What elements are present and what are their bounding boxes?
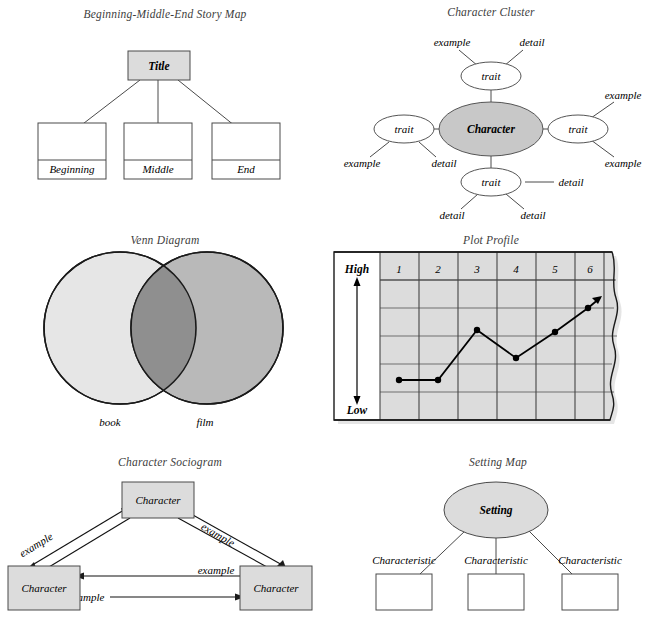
trait-leaf-label: example	[605, 89, 642, 101]
setting-map-title: Setting Map	[340, 456, 656, 468]
panel-character-cluster: Character Cluster Character trait exampl…	[326, 6, 656, 234]
setting-map-child-label: Characteristic	[558, 554, 622, 566]
story-map-child-label: Beginning	[49, 163, 95, 175]
trait-leaf-label: detail	[431, 157, 456, 169]
character-cluster-trait-top[interactable]: trait	[461, 62, 521, 90]
setting-map-child-1[interactable]: Characteristic	[372, 554, 436, 610]
story-map-diagram: Title Beginning Middle End	[0, 8, 330, 218]
character-sociogram-title: Character Sociogram	[0, 456, 340, 468]
trait-label: trait	[569, 123, 589, 135]
venn-label-left: book	[99, 416, 122, 428]
plot-data-point	[474, 327, 480, 333]
trait-leaf-label: detail	[439, 209, 464, 221]
plot-profile-title: Plot Profile	[326, 234, 656, 246]
sociogram-edge-label: example	[199, 520, 237, 549]
plot-data-point	[396, 377, 402, 383]
sociogram-node-top[interactable]: Character	[122, 482, 194, 518]
plot-y-axis-low-label: Low	[346, 404, 368, 416]
trait-leaf-label: detail	[520, 209, 545, 221]
plot-data-point	[435, 377, 441, 383]
setting-map-child-label: Characteristic	[372, 554, 436, 566]
story-map-root-label: Title	[148, 60, 169, 72]
setting-map-child-2[interactable]: Characteristic	[464, 554, 528, 610]
story-map-title: Beginning-Middle-End Story Map	[0, 8, 330, 20]
venn-label-right: film	[196, 416, 213, 428]
character-sociogram-diagram: example example example example Characte…	[0, 456, 340, 616]
plot-column-header: 2	[435, 263, 441, 275]
setting-map-center-label: Setting	[479, 504, 512, 517]
sociogram-node-bottom-right[interactable]: Character	[240, 566, 312, 610]
plot-column-header: 4	[513, 263, 519, 275]
plot-profile-chart: 1 2 3 4 5 6 High Low	[326, 234, 656, 426]
plot-data-point	[513, 355, 519, 361]
plot-y-axis-high-label: High	[344, 263, 369, 276]
story-map-child-label: End	[236, 163, 255, 175]
venn-diagram-graphic: book film	[0, 234, 330, 434]
character-cluster-center-node[interactable]: Character	[439, 102, 543, 156]
trait-leaf-label: example	[605, 157, 642, 169]
plot-column-header: 3	[473, 263, 480, 275]
setting-map-child-3[interactable]: Characteristic	[558, 554, 622, 610]
story-map-child-beginning[interactable]: Beginning	[38, 123, 106, 179]
setting-map-center-node[interactable]: Setting	[444, 482, 548, 538]
trait-label: trait	[482, 176, 502, 188]
trait-leaf-label: example	[344, 157, 381, 169]
trait-label: trait	[395, 123, 415, 135]
setting-map-diagram: Setting Characteristic Characteristic Ch…	[340, 456, 656, 616]
character-cluster-trait-right[interactable]: trait	[548, 115, 608, 143]
sociogram-node-label: Character	[253, 582, 299, 594]
plot-data-point	[585, 305, 591, 311]
setting-map-child-label: Characteristic	[464, 554, 528, 566]
venn-diagram-title: Venn Diagram	[0, 234, 330, 246]
trait-leaf-label: example	[434, 36, 471, 48]
sociogram-edge-label: example	[198, 564, 235, 576]
sociogram-edge-left-to-right[interactable]	[110, 594, 245, 601]
story-map-child-end[interactable]: End	[212, 123, 280, 179]
panel-story-map: Beginning-Middle-End Story Map Title Beg…	[0, 8, 330, 230]
character-cluster-diagram: Character trait example detail trait exa…	[326, 6, 656, 228]
trait-label: trait	[482, 70, 502, 82]
trait-leaf-label: detail	[558, 176, 583, 188]
panel-character-sociogram: Character Sociogram example example exam…	[0, 456, 340, 624]
plot-column-header: 5	[552, 263, 558, 275]
plot-data-point	[552, 329, 558, 335]
character-cluster-trait-left[interactable]: trait	[374, 115, 434, 143]
panel-venn-diagram: Venn Diagram book film	[0, 234, 330, 444]
trait-leaf-label: detail	[519, 36, 544, 48]
sociogram-node-label: Character	[135, 494, 181, 506]
character-cluster-trait-bottom[interactable]: trait	[461, 168, 521, 196]
plot-column-header: 6	[587, 263, 593, 275]
story-map-root-node[interactable]: Title	[128, 51, 190, 80]
character-cluster-title: Character Cluster	[326, 6, 656, 18]
story-map-child-middle[interactable]: Middle	[124, 123, 192, 179]
panel-setting-map: Setting Map Setting Characteristic Chara…	[340, 456, 656, 624]
story-map-child-label: Middle	[141, 163, 173, 175]
sociogram-node-label: Character	[21, 582, 67, 594]
plot-column-header: 1	[396, 263, 402, 275]
panel-plot-profile: Plot Profile 1 2 3 4 5 6	[326, 234, 656, 434]
sociogram-node-bottom-left[interactable]: Character	[8, 566, 80, 610]
character-cluster-center-label: Character	[467, 123, 515, 135]
